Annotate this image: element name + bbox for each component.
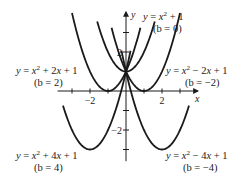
label-bm4-equation: y = x2 − 4x + 1 bbox=[165, 149, 228, 161]
label-bm2-param: (b = −2) bbox=[185, 77, 220, 89]
label-b4-param: (b = 4) bbox=[34, 162, 63, 174]
x-tick-label: −2 bbox=[85, 95, 96, 106]
parabola-family-chart: −222−2xy y = x2 + 1 (b = 0) y = x2 + 2x … bbox=[0, 0, 243, 179]
label-bm4-param: (b = −4) bbox=[183, 162, 218, 174]
label-b0-equation: y = x2 + 1 bbox=[142, 10, 183, 22]
label-b4-equation: y = x2 + 4x + 1 bbox=[15, 149, 78, 161]
label-bm2-equation: y = x2 − 2x + 1 bbox=[165, 64, 228, 76]
x-tick-label: 2 bbox=[160, 95, 165, 106]
y-axis-label: y bbox=[130, 9, 136, 20]
label-b0-param: (b = 0) bbox=[153, 23, 182, 35]
label-b2-equation: y = x2 + 2x + 1 bbox=[15, 64, 78, 76]
label-b2-param: (b = 2) bbox=[34, 77, 63, 89]
y-tick-label: −2 bbox=[111, 125, 122, 136]
x-axis-label: x bbox=[194, 93, 200, 104]
